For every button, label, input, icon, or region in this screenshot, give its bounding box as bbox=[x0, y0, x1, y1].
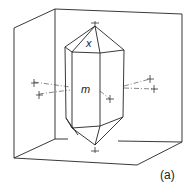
face-label-x: x bbox=[86, 37, 92, 49]
panel-label: (a) bbox=[160, 168, 175, 182]
axis-cross-markers bbox=[31, 21, 158, 153]
crystal-axes bbox=[31, 21, 158, 153]
crystal bbox=[65, 26, 124, 145]
face-label-m: m bbox=[81, 83, 90, 95]
crystal-diagram: x m (a) bbox=[0, 0, 185, 187]
crystal-drawing bbox=[0, 0, 185, 187]
